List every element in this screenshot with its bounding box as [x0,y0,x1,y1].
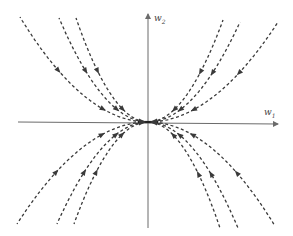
arrow-right-icon [139,119,146,126]
w1-axis-label: w1 [264,107,276,119]
flow-arrow-icon [98,133,105,138]
flow-arrow-icon [211,69,217,76]
w2-axis-label: w2 [154,13,166,25]
trajectory-ur-2 [153,22,240,122]
flow-arrow-icon [82,67,88,74]
flow-arrow-icon [92,169,97,176]
flow-arrow-icon [94,67,99,74]
trajectory-lr-2 [153,122,239,228]
trajectory-ul-1 [20,17,142,122]
flow-arrow-icon [199,68,204,75]
flow-arrow-icon [235,171,241,178]
phase-portrait [0,0,293,236]
flow-arrow-icon [191,106,198,111]
trajectory-lr-1 [152,122,220,228]
flow-arrow-icon [197,171,202,178]
flow-arrow-icon [80,169,86,176]
flow-arrow-icon [190,133,197,138]
flow-arrow-icon [99,105,106,110]
flow-arrow-icon [209,171,215,178]
arrow-left-icon [150,119,157,126]
flow-arrow-icon [237,69,243,75]
trajectory-lr-3 [154,122,275,226]
